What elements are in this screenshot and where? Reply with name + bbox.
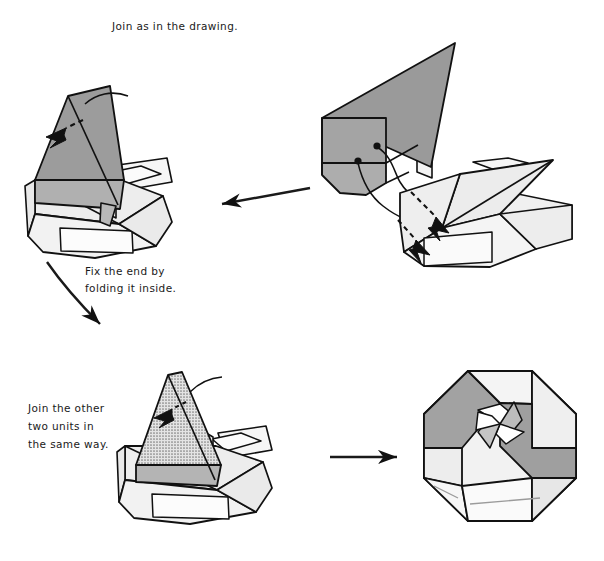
panel-two-units-before-joining <box>322 43 572 267</box>
panel-repeat-with-remaining-units <box>117 372 272 524</box>
box-inner-bottom <box>60 228 133 253</box>
gray-flap-lower-band <box>136 465 221 486</box>
free-unit-gray-wing <box>322 43 455 195</box>
gray-flap-upper <box>136 372 221 465</box>
unit-lower-body <box>322 163 386 195</box>
caption-fix-the-end: Fix the end by folding it inside. <box>85 265 176 294</box>
caption-line: Join as in the drawing. <box>111 20 238 32</box>
caption-line: the same way. <box>28 438 109 450</box>
panel-completed-hexagonal-box <box>424 371 576 521</box>
unit-left-upper-panel <box>322 118 386 163</box>
panel-units-joined <box>25 86 172 258</box>
caption-join-as-in-the-drawing: Join as in the drawing. <box>111 20 238 32</box>
caption-join-the-other-two-units: Join the other two units in the same way… <box>27 402 109 450</box>
caption-line: folding it inside. <box>85 282 176 294</box>
flow-arrow-leftward-shaft <box>222 188 310 204</box>
fold-arrow-curve <box>190 377 222 392</box>
caption-line: Join the other <box>27 402 105 414</box>
box-inner-bottom <box>152 494 229 519</box>
origami-instruction-page: Join as in the drawing. Fix the end by f… <box>0 0 604 561</box>
gray-flap-upper <box>35 86 124 180</box>
flow-arrow-leftward <box>222 188 310 204</box>
diagram-canvas: Join as in the drawing. Fix the end by f… <box>0 0 604 561</box>
caption-line: two units in <box>28 420 94 432</box>
pinwheel-sector-top-right <box>532 371 576 448</box>
pinwheel-sector-bottom-right <box>532 478 576 521</box>
box-front-rim <box>424 232 492 266</box>
repeat-gray-flap <box>136 372 221 486</box>
caption-line: Fix the end by <box>85 265 165 277</box>
